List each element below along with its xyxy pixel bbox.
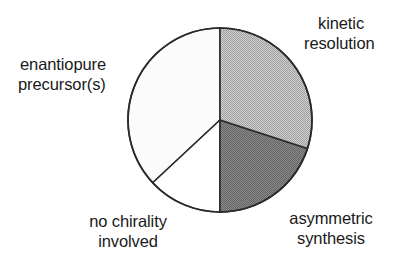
slice-label-enantiopure-precursors: enantiopure precursor(s) xyxy=(18,55,106,94)
slice-label-asymmetric-synthesis: asymmetric synthesis xyxy=(272,209,390,248)
slice-label-enantiopure-precursors-line2: precursor(s) xyxy=(18,75,106,95)
slice-label-no-chirality-involved-line2: involved xyxy=(62,232,194,252)
slice-label-no-chirality-involved-line1: no chirality xyxy=(62,212,194,232)
slice-label-enantiopure-precursors-line1: enantiopure xyxy=(18,55,106,75)
slice-label-asymmetric-synthesis-line1: asymmetric xyxy=(272,209,390,229)
pie-chart-figure: kinetic resolution enantiopure precursor… xyxy=(0,0,401,272)
slice-label-kinetic-resolution: kinetic resolution xyxy=(304,14,375,53)
slice-label-kinetic-resolution-line1: kinetic xyxy=(304,14,375,34)
slice-label-asymmetric-synthesis-line2: synthesis xyxy=(272,229,390,249)
slice-label-no-chirality-involved: no chirality involved xyxy=(62,212,194,251)
slice-label-kinetic-resolution-line2: resolution xyxy=(304,34,375,54)
